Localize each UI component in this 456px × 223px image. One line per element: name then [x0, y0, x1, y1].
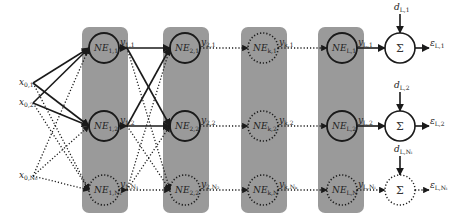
error-label: εL,2: [430, 116, 445, 127]
input-edge: [33, 83, 89, 190]
desired-label: dL,2: [394, 80, 410, 91]
diagram-svg: x0,1x0,2x0,N₀NE1,1y1,1NE1,2y1,2NE1,N₁y1,…: [0, 0, 456, 223]
sigma-symbol: Σ: [396, 42, 404, 55]
input-edge: [33, 176, 89, 190]
output-label: y1,N₁: [119, 179, 138, 190]
input-edge: [33, 103, 89, 190]
sigma-symbol: Σ: [396, 184, 404, 197]
error-label: εL,Nₗ: [430, 180, 448, 191]
input-label-2: x0,2: [19, 97, 34, 108]
output-label: yL,1: [357, 37, 373, 48]
input-edge: [33, 126, 89, 176]
desired-label: dL,1: [394, 2, 409, 13]
sigma-symbol: Σ: [396, 120, 404, 133]
input-edge: [33, 83, 89, 126]
network-diagram: x0,1x0,2x0,N₀NE1,1y1,1NE1,2y1,2NE1,N₁y1,…: [0, 0, 456, 223]
input-edge: [33, 103, 89, 126]
output-label: yL,Nₗ: [357, 179, 376, 190]
input-edge: [33, 48, 89, 176]
input-label-3: x0,N₀: [19, 170, 38, 181]
output-label: y2,N₂: [200, 179, 220, 190]
output-label: yL,2: [357, 115, 373, 126]
input-label-1: x0,1: [19, 77, 34, 88]
output-label: yk,Nₖ: [278, 179, 298, 190]
input-edge: [33, 48, 89, 83]
input-edge: [33, 48, 89, 103]
desired-label: dL,Nₗ: [394, 144, 413, 155]
error-label: εL,1: [430, 38, 445, 49]
